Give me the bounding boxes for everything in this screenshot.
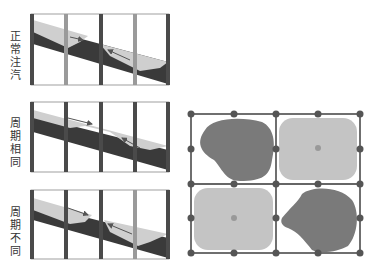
well-bar	[99, 14, 103, 85]
well-bar	[99, 190, 103, 259]
well-bar	[30, 14, 34, 85]
panel-same-cycle	[30, 102, 170, 172]
well-bar	[99, 102, 103, 172]
well-bar	[30, 190, 34, 259]
panel-normal-injection	[30, 14, 170, 85]
well-bar	[64, 14, 68, 85]
blob-bottom-right	[281, 189, 357, 252]
well-grid	[188, 111, 364, 257]
center-dot	[231, 215, 237, 221]
well-bar	[30, 102, 34, 172]
well-bar	[166, 14, 170, 85]
well-bar	[64, 102, 68, 172]
well-bar	[133, 190, 137, 259]
blob-top-left	[200, 119, 274, 181]
well-bar	[133, 102, 137, 172]
diagram-canvas	[0, 0, 373, 269]
well-bar	[133, 14, 137, 85]
well-bar	[166, 190, 170, 259]
well-bar	[166, 102, 170, 172]
center-dot	[315, 145, 321, 151]
well-bar	[64, 190, 68, 259]
panel-different-cycle	[30, 190, 170, 259]
